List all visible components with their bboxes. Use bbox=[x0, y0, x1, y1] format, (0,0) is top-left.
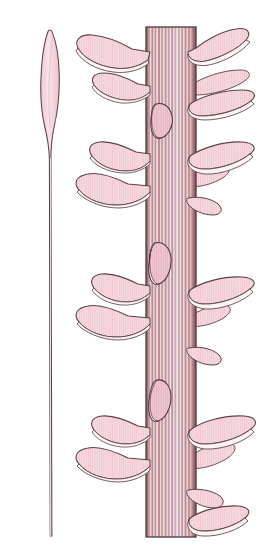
detached-leaf-petiole-highlight bbox=[50, 158, 51, 536]
botanical-illustration bbox=[0, 0, 270, 549]
illustration-plate: Botanical line illustration of a leafy s… bbox=[0, 0, 270, 549]
